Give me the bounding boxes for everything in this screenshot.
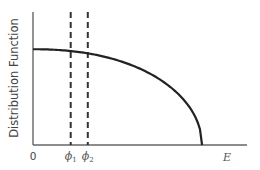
distribution-diagram: Distribution Function 0 ϕ1 ϕ2 E: [0, 0, 260, 170]
x-axis-label: E: [222, 151, 231, 164]
phi1-subscript: 1: [72, 156, 76, 164]
y-axis-label: Distribution Function: [7, 18, 21, 138]
phi1-label: ϕ1: [65, 150, 77, 164]
phi2-subscript: 2: [89, 156, 93, 164]
distribution-curve: [33, 49, 202, 145]
origin-label: 0: [30, 150, 37, 162]
phi2-label: ϕ2: [82, 150, 94, 164]
